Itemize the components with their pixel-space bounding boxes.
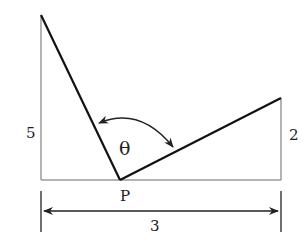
label-base-length: 3 bbox=[150, 217, 160, 235]
right-wire bbox=[120, 98, 281, 180]
label-left-height: 5 bbox=[26, 124, 36, 142]
label-right-height: 2 bbox=[289, 126, 299, 144]
left-wire bbox=[41, 15, 120, 180]
diagram-canvas: 5 2 P θ 3 bbox=[0, 0, 306, 252]
label-point-P: P bbox=[120, 187, 130, 205]
label-angle-theta: θ bbox=[119, 137, 130, 159]
angle-arc-arrow bbox=[99, 118, 173, 147]
